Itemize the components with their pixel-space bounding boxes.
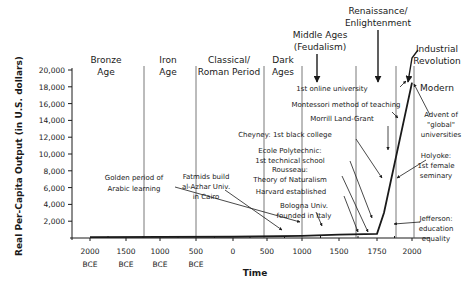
- annotation-label: "global": [427, 121, 455, 129]
- era-label: Enlightenment: [345, 18, 412, 28]
- x-axis-title: Time: [243, 268, 268, 278]
- era-label: Iron: [159, 55, 176, 65]
- annotation-label: 1st female: [417, 162, 454, 170]
- y-tick-label: 10,000: [39, 150, 65, 159]
- annotation-label: Arabic learning: [108, 185, 161, 193]
- annotation-leader: [350, 161, 372, 218]
- industrial-arrow: [408, 50, 418, 82]
- annotation-leader: [400, 81, 406, 87]
- annotation-label: Rousseau:: [272, 166, 308, 174]
- annotation-label: founded in Italy: [277, 212, 332, 220]
- annotation-leader: [225, 190, 282, 230]
- x-tick-label: 500: [189, 247, 204, 256]
- annotation-label: 1st technical school: [255, 157, 325, 165]
- annotation-label: equality: [422, 235, 450, 243]
- x-tick-label: BCE: [153, 260, 168, 269]
- annotation-label: Golden period of: [105, 174, 164, 182]
- annotation-label: education: [419, 225, 454, 233]
- era-label: Dark: [272, 55, 294, 65]
- annotation-label: in Cairo: [193, 193, 220, 201]
- annotation-label: Theory of Naturalism: [252, 176, 327, 184]
- annotation-label: Morrill Land-Grant: [310, 115, 374, 123]
- era-label: Revolution: [413, 56, 461, 66]
- era-label: Modern: [420, 83, 454, 93]
- y-axis-title: Real Per-Capita Output (in U.S. dollars): [14, 56, 24, 256]
- y-tick-label: 20,000: [39, 66, 65, 75]
- x-tick-label: 0: [231, 247, 236, 256]
- annotation-label: 1st online university: [296, 85, 367, 93]
- annotation-label: universities: [421, 131, 462, 139]
- annotation-leader: [356, 139, 382, 178]
- era-label: Ages: [272, 67, 294, 77]
- y-tick-label: 12,000: [39, 133, 65, 142]
- y-tick-label: 2,000: [44, 217, 66, 226]
- y-tick-label: 6,000: [44, 184, 66, 193]
- era-label: Bronze: [90, 55, 122, 65]
- x-tick-label: BCE: [119, 260, 134, 269]
- x-tick-label: BCE: [189, 260, 204, 269]
- x-tick-label: 1000: [292, 247, 311, 256]
- annotation-label: Bologna Univ.: [280, 202, 328, 210]
- annotation-leader: [392, 112, 398, 118]
- annotation-label: Harvard established: [256, 188, 326, 196]
- era-label: Renaissance/: [348, 6, 408, 16]
- annotation-label: Fatmids build: [183, 173, 230, 181]
- era-label: Roman Period: [198, 67, 260, 77]
- annotation-label: Ecole Polytechnic:: [258, 147, 321, 155]
- y-tick-label: 8,000: [44, 167, 66, 176]
- annotation-label: Montessori method of teaching: [291, 101, 400, 109]
- annotation-label: Cheyney: 1st black college: [238, 131, 332, 139]
- x-tick-label: 1500: [116, 247, 135, 256]
- annotation-label: al-Azhar Univ.: [182, 183, 230, 191]
- x-tick-label: BCE: [83, 260, 98, 269]
- x-tick-label: 1500: [329, 247, 348, 256]
- era-label: (Feudalism): [294, 42, 347, 52]
- y-tick-label: 16,000: [39, 100, 65, 109]
- era-label: Classical/: [208, 55, 251, 65]
- annotation-label: seminary: [420, 172, 452, 180]
- y-tick-label: 18,000: [39, 83, 65, 92]
- era-label: Age: [159, 67, 177, 77]
- x-tick-label: 1750: [367, 247, 386, 256]
- annotation-label: Jefferson:: [418, 215, 452, 223]
- era-label: Age: [97, 67, 115, 77]
- y-tick-label: 4,000: [44, 200, 66, 209]
- x-tick-label: 2000: [402, 247, 421, 256]
- era-label: Industrial: [416, 44, 458, 54]
- x-tick-label: 500: [260, 247, 275, 256]
- x-tick-label: 2000: [80, 247, 99, 256]
- annotation-label: Holyoke:: [421, 152, 451, 160]
- x-tick-label: 1000: [150, 247, 169, 256]
- era-label: Middle Ages: [293, 30, 348, 40]
- annotation-label: Advent of: [424, 111, 458, 119]
- chart: 20,00018,00016,00014,00012,00010,0008,00…: [0, 0, 468, 297]
- y-tick-label: 14,000: [39, 116, 65, 125]
- annotation-leader: [394, 222, 420, 224]
